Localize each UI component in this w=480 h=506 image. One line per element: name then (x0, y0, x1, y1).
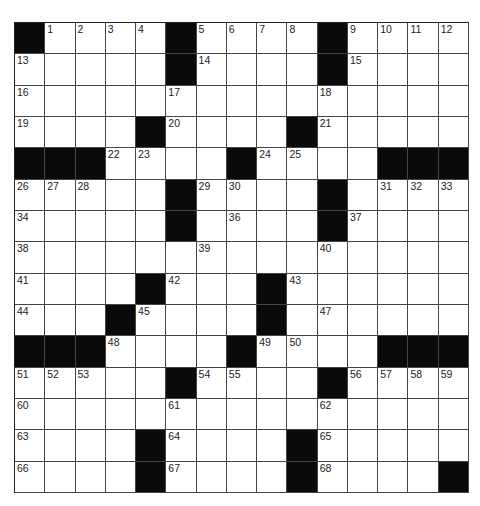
crossword-cell[interactable] (197, 399, 227, 430)
crossword-cell[interactable] (197, 86, 227, 117)
crossword-cell[interactable]: 52 (45, 368, 75, 399)
crossword-cell[interactable] (166, 242, 196, 273)
crossword-cell[interactable]: 9 (348, 23, 378, 54)
crossword-cell[interactable] (257, 180, 287, 211)
crossword-cell[interactable]: 18 (318, 86, 348, 117)
crossword-cell[interactable] (106, 430, 136, 461)
crossword-cell[interactable] (136, 180, 166, 211)
crossword-cell[interactable]: 55 (227, 368, 257, 399)
crossword-cell[interactable] (378, 399, 408, 430)
crossword-cell[interactable] (257, 462, 287, 493)
crossword-cell[interactable] (348, 336, 378, 367)
crossword-cell[interactable] (378, 54, 408, 85)
crossword-cell[interactable] (136, 336, 166, 367)
crossword-cell[interactable] (257, 368, 287, 399)
crossword-cell[interactable] (45, 86, 75, 117)
crossword-cell[interactable] (227, 117, 257, 148)
crossword-cell[interactable]: 36 (227, 211, 257, 242)
crossword-cell[interactable]: 12 (439, 23, 469, 54)
crossword-cell[interactable] (45, 117, 75, 148)
crossword-cell[interactable]: 43 (287, 274, 317, 305)
crossword-cell[interactable]: 14 (197, 54, 227, 85)
crossword-cell[interactable] (408, 305, 438, 336)
crossword-cell[interactable] (257, 399, 287, 430)
crossword-cell[interactable] (348, 242, 378, 273)
crossword-cell[interactable] (136, 242, 166, 273)
crossword-cell[interactable] (76, 399, 106, 430)
crossword-cell[interactable] (197, 211, 227, 242)
crossword-cell[interactable] (45, 211, 75, 242)
crossword-cell[interactable]: 21 (318, 117, 348, 148)
crossword-cell[interactable] (106, 399, 136, 430)
crossword-cell[interactable] (408, 462, 438, 493)
crossword-cell[interactable] (408, 430, 438, 461)
crossword-cell[interactable] (45, 54, 75, 85)
crossword-cell[interactable] (287, 399, 317, 430)
crossword-cell[interactable]: 6 (227, 23, 257, 54)
crossword-cell[interactable] (166, 336, 196, 367)
crossword-cell[interactable] (439, 54, 469, 85)
crossword-cell[interactable] (197, 305, 227, 336)
crossword-cell[interactable] (378, 462, 408, 493)
crossword-cell[interactable]: 24 (257, 148, 287, 179)
crossword-cell[interactable] (287, 211, 317, 242)
crossword-cell[interactable] (439, 305, 469, 336)
crossword-cell[interactable]: 30 (227, 180, 257, 211)
crossword-cell[interactable] (106, 462, 136, 493)
crossword-cell[interactable] (106, 368, 136, 399)
crossword-cell[interactable] (76, 211, 106, 242)
crossword-cell[interactable]: 8 (287, 23, 317, 54)
crossword-cell[interactable] (378, 242, 408, 273)
crossword-cell[interactable]: 48 (106, 336, 136, 367)
crossword-cell[interactable]: 65 (318, 430, 348, 461)
crossword-cell[interactable] (76, 462, 106, 493)
crossword-cell[interactable] (408, 54, 438, 85)
crossword-cell[interactable] (257, 117, 287, 148)
crossword-cell[interactable]: 50 (287, 336, 317, 367)
crossword-cell[interactable] (197, 462, 227, 493)
crossword-cell[interactable] (287, 86, 317, 117)
crossword-cell[interactable] (76, 430, 106, 461)
crossword-cell[interactable]: 7 (257, 23, 287, 54)
crossword-cell[interactable] (287, 368, 317, 399)
crossword-cell[interactable]: 29 (197, 180, 227, 211)
crossword-cell[interactable]: 16 (15, 86, 45, 117)
crossword-cell[interactable]: 3 (106, 23, 136, 54)
crossword-cell[interactable] (76, 54, 106, 85)
crossword-cell[interactable] (45, 242, 75, 273)
crossword-cell[interactable] (287, 305, 317, 336)
crossword-cell[interactable] (197, 148, 227, 179)
crossword-cell[interactable] (408, 211, 438, 242)
crossword-cell[interactable] (76, 117, 106, 148)
crossword-cell[interactable] (227, 242, 257, 273)
crossword-cell[interactable] (408, 399, 438, 430)
crossword-cell[interactable] (439, 242, 469, 273)
crossword-cell[interactable] (318, 148, 348, 179)
crossword-cell[interactable] (136, 54, 166, 85)
crossword-cell[interactable] (45, 430, 75, 461)
crossword-cell[interactable] (408, 117, 438, 148)
crossword-cell[interactable] (287, 180, 317, 211)
crossword-cell[interactable]: 49 (257, 336, 287, 367)
crossword-cell[interactable] (439, 211, 469, 242)
crossword-cell[interactable] (76, 86, 106, 117)
crossword-cell[interactable]: 62 (318, 399, 348, 430)
crossword-cell[interactable] (348, 117, 378, 148)
crossword-cell[interactable] (197, 117, 227, 148)
crossword-cell[interactable]: 25 (287, 148, 317, 179)
crossword-cell[interactable] (439, 430, 469, 461)
crossword-cell[interactable]: 26 (15, 180, 45, 211)
crossword-cell[interactable]: 47 (318, 305, 348, 336)
crossword-cell[interactable]: 27 (45, 180, 75, 211)
crossword-cell[interactable] (227, 86, 257, 117)
crossword-cell[interactable]: 28 (76, 180, 106, 211)
crossword-cell[interactable] (439, 86, 469, 117)
crossword-cell[interactable] (378, 274, 408, 305)
crossword-cell[interactable] (287, 242, 317, 273)
crossword-cell[interactable]: 20 (166, 117, 196, 148)
crossword-cell[interactable] (408, 242, 438, 273)
crossword-cell[interactable] (136, 399, 166, 430)
crossword-cell[interactable] (348, 305, 378, 336)
crossword-cell[interactable]: 40 (318, 242, 348, 273)
crossword-cell[interactable]: 2 (76, 23, 106, 54)
